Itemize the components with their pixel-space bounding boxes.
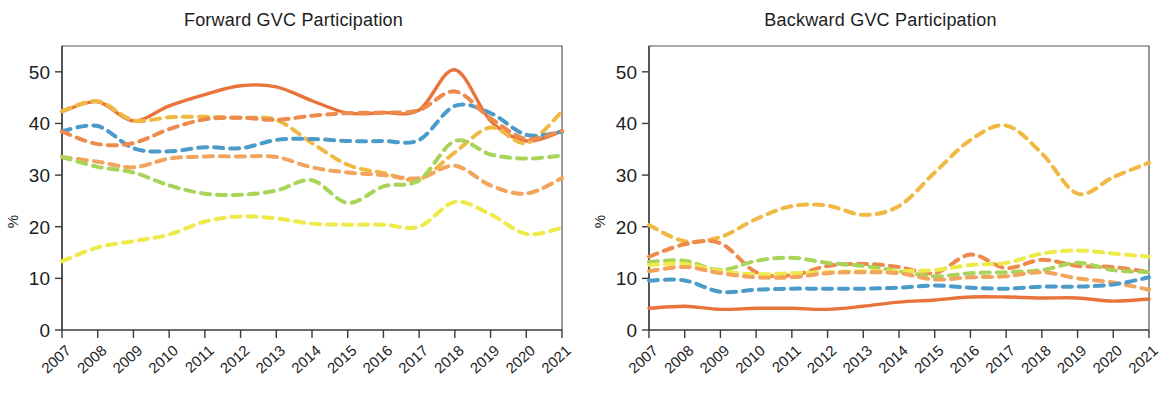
chart-forward-gvc: 01020304050%2007200820092010201120122013… <box>0 0 587 394</box>
series-yellow-dashed <box>62 202 562 262</box>
forward-axes <box>55 46 562 338</box>
x-tick-label: 2010 <box>732 342 768 377</box>
x-tick-label: 2016 <box>946 342 982 377</box>
x-tick-label: 2009 <box>696 342 732 377</box>
x-tick-label: 2008 <box>661 342 697 377</box>
x-tick-label: 2014 <box>875 342 911 377</box>
x-tick-label: 2017 <box>395 342 431 377</box>
x-tick-label: 2019 <box>1053 342 1089 377</box>
panel-backward-gvc: Backward GVC Participation 01020304050%2… <box>587 0 1174 394</box>
x-tick-label: 2008 <box>74 342 110 377</box>
y-tick-label: 30 <box>29 165 50 186</box>
series-gold-dashed <box>649 125 1149 242</box>
x-tick-label: 2012 <box>803 342 839 377</box>
chart-backward-gvc: 01020304050%2007200820092010201120122013… <box>587 0 1174 394</box>
y-axis-label: % <box>591 215 608 228</box>
y-axis-label: % <box>4 215 21 228</box>
y-tick-label: 0 <box>626 320 637 341</box>
y-tick-label: 0 <box>39 320 50 341</box>
x-tick-label: 2015 <box>911 342 947 377</box>
x-tick-label: 2011 <box>182 342 217 376</box>
y-tick-label: 40 <box>29 113 50 134</box>
x-tick-label: 2015 <box>324 342 360 377</box>
y-tick-label: 50 <box>29 62 50 83</box>
x-tick-label: 2007 <box>38 342 74 377</box>
x-tick-label: 2009 <box>109 342 145 377</box>
x-tick-label: 2019 <box>466 342 502 377</box>
x-tick-label: 2011 <box>769 342 804 376</box>
x-tick-label: 2016 <box>359 342 395 377</box>
series-orange-solid <box>649 297 1149 310</box>
x-tick-label: 2013 <box>252 342 288 377</box>
y-tick-label: 50 <box>616 62 637 83</box>
series-orange-light-dashed <box>649 267 1149 290</box>
x-tick-label: 2018 <box>431 342 467 377</box>
y-tick-label: 20 <box>29 217 50 238</box>
x-tick-label: 2017 <box>982 342 1018 377</box>
y-tick-label: 40 <box>616 113 637 134</box>
forward-series <box>62 70 562 262</box>
y-tick-label: 20 <box>616 217 637 238</box>
x-tick-label: 2020 <box>502 342 538 377</box>
y-tick-label: 10 <box>616 268 637 289</box>
x-tick-label: 2021 <box>1125 342 1161 377</box>
x-tick-label: 2012 <box>216 342 252 377</box>
figure-root: Forward GVC Participation 01020304050%20… <box>0 0 1174 394</box>
x-tick-label: 2007 <box>625 342 661 377</box>
x-tick-label: 2014 <box>288 342 324 377</box>
x-tick-label: 2013 <box>839 342 875 377</box>
backward-series <box>649 125 1149 309</box>
x-tick-label: 2021 <box>538 342 574 377</box>
panel-forward-gvc: Forward GVC Participation 01020304050%20… <box>0 0 587 394</box>
x-tick-label: 2020 <box>1089 342 1125 377</box>
series-blue-dashed <box>649 277 1149 292</box>
y-tick-label: 30 <box>616 165 637 186</box>
series-orange-light-dashed <box>62 156 562 194</box>
x-tick-label: 2010 <box>145 342 181 377</box>
y-tick-label: 10 <box>29 268 50 289</box>
x-tick-label: 2018 <box>1018 342 1054 377</box>
